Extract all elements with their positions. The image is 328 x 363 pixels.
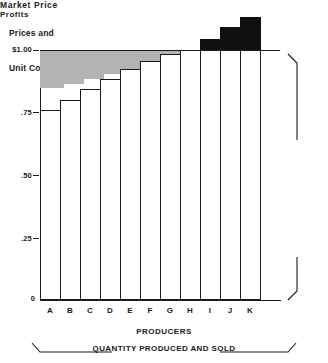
x-label-d: D	[100, 306, 120, 315]
bar-h	[180, 50, 201, 301]
bar-f	[140, 61, 161, 300]
x-label-e: E	[120, 306, 140, 315]
bar-e	[120, 69, 141, 300]
bar-b	[60, 100, 81, 300]
quantity-caption: QUANTITY PRODUCED AND SOLD	[0, 344, 328, 353]
y-label-0-75: .75	[0, 108, 32, 117]
x-label-j: J	[220, 306, 240, 315]
market-demand-brace	[286, 52, 302, 302]
x-label-c: C	[80, 306, 100, 315]
x-label-b: B	[60, 306, 80, 315]
chart-figure: Prices and Unit Costs Market Price Profi…	[0, 0, 328, 363]
bar-i	[200, 50, 221, 301]
y-label-0: 0	[0, 294, 35, 303]
y-tick-0-50	[33, 175, 39, 176]
x-label-h: H	[180, 306, 200, 315]
loss-bar-i	[200, 39, 221, 50]
bar-g	[160, 54, 181, 300]
y-label-0-50: .50	[0, 171, 32, 180]
y-label-1-00: $1.00	[0, 45, 32, 54]
y-tick-0-25	[33, 238, 39, 239]
page-title-line-1: Prices and	[9, 28, 54, 40]
y-tick-1-00	[33, 50, 39, 51]
bar-j	[220, 50, 241, 301]
x-label-k: K	[240, 306, 260, 315]
x-label-f: F	[140, 306, 160, 315]
bar-k	[240, 50, 261, 301]
x-label-g: G	[160, 306, 180, 315]
x-label-i: I	[200, 306, 220, 315]
x-label-a: A	[40, 306, 60, 315]
loss-bar-k	[240, 17, 261, 50]
y-label-0-25: .25	[0, 234, 32, 243]
bar-d	[100, 79, 121, 300]
x-axis	[40, 300, 281, 301]
bar-a	[40, 110, 61, 300]
y-tick-0-75	[33, 112, 39, 113]
loss-bar-j	[220, 27, 241, 50]
bar-c	[80, 89, 101, 300]
x-axis-title: PRODUCERS	[0, 327, 328, 336]
